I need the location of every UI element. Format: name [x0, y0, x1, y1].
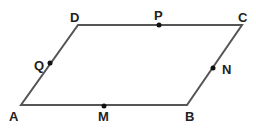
label-n: N	[222, 62, 231, 77]
label-a: A	[9, 109, 19, 124]
label-m: M	[98, 109, 109, 124]
parallelogram-diagram: D P C Q N A M B	[0, 0, 256, 138]
point-m	[102, 104, 107, 109]
label-d: D	[70, 10, 79, 25]
point-n	[211, 66, 216, 71]
point-q	[48, 61, 53, 66]
label-c: C	[238, 10, 248, 25]
label-q: Q	[34, 58, 44, 73]
parallelogram-abcd	[21, 25, 242, 105]
point-p	[157, 23, 162, 28]
label-b: B	[185, 109, 194, 124]
label-p: P	[154, 8, 163, 23]
